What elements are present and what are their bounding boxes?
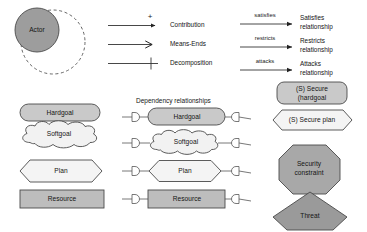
- restricts-relationship-name-line1: Restricts: [300, 37, 325, 44]
- dependency-connector-right-icon-3: [232, 167, 239, 176]
- actor-label: Actor: [29, 26, 45, 33]
- secure-plan-label: (S) Secure plan: [289, 116, 336, 124]
- secure-hardgoal-label-line2: (hardgoal: [298, 94, 327, 102]
- dependency-row-plan: Plan: [122, 161, 251, 182]
- satisfies-relationship-name-line1: Satisfies: [300, 14, 324, 21]
- satisfies-relationship-name-line2: relationship: [300, 23, 333, 31]
- dependency-row-hardgoal: Hardgoal: [122, 108, 251, 125]
- relationship-legend-group: satisfies Satisfies relationship restric…: [240, 12, 333, 77]
- shape-plan-label: Plan: [54, 167, 68, 174]
- decomposition-label: Decomposition: [170, 59, 213, 67]
- shape-hardgoal-label: Hardgoal: [46, 109, 74, 117]
- dependency-section-group: Dependency relationships Hardgoal Softgo…: [122, 97, 251, 208]
- satisfies-edge-label: satisfies: [254, 12, 275, 18]
- actor-group: Actor: [15, 8, 85, 74]
- security-shapes-group: (S) Secure (hardgoal (S) Secure plan Sec…: [273, 82, 352, 230]
- dependency-connector-left-icon-4: [132, 195, 140, 204]
- dependency-connector-left-icon-1: [132, 113, 140, 122]
- dependency-shape-plan-label: Plan: [178, 167, 192, 174]
- dependency-connector-right-icon-2: [232, 139, 239, 148]
- secure-hardgoal-label-line1: (S) Secure: [296, 85, 328, 93]
- dependency-connector-left-icon-3: [132, 167, 140, 176]
- dependency-row-resource: Resource: [122, 190, 251, 208]
- link-legend-group: + Contribution Means-Ends Decomposition: [108, 12, 213, 70]
- restricts-edge-label: restricts: [255, 35, 276, 41]
- threat-label: Threat: [300, 212, 319, 219]
- attacks-relationship-name-line1: Attacks: [300, 60, 321, 67]
- attacks-relationship-name-line2: relationship: [300, 69, 333, 77]
- dependency-shape-softgoal-label: Softgoal: [174, 138, 199, 146]
- means-ends-label: Means-Ends: [170, 40, 206, 47]
- attacks-edge-label: attacks: [256, 58, 275, 64]
- restricts-relationship-name-line2: relationship: [300, 46, 333, 54]
- contribution-label: Contribution: [170, 21, 205, 28]
- dependency-connector-left-icon-2: [132, 139, 140, 148]
- shape-softgoal-label: Softgoal: [47, 130, 72, 138]
- shape-resource-label: Resource: [48, 195, 77, 202]
- dependency-row-softgoal: Softgoal: [122, 130, 251, 155]
- dependency-connector-right-icon-4: [232, 195, 239, 204]
- contribution-link-icon: +: [108, 12, 155, 26]
- dependency-section-title: Dependency relationships: [136, 97, 212, 105]
- security-constraint-label-line1: Security: [297, 160, 322, 168]
- contribution-plus-sign: +: [148, 12, 153, 21]
- diagram-legend-canvas: Actor + Contribution Means-Ends Decompos…: [0, 0, 367, 232]
- element-shapes-group: Hardgoal Softgoal Plan Resource: [20, 104, 104, 208]
- dependency-shape-hardgoal-label: Hardgoal: [173, 113, 201, 121]
- decomposition-link-icon: [108, 58, 158, 70]
- dependency-connector-right-icon-1: [232, 113, 239, 122]
- dependency-shape-resource-label: Resource: [173, 195, 202, 202]
- security-constraint-label-line2: constraint: [294, 169, 323, 176]
